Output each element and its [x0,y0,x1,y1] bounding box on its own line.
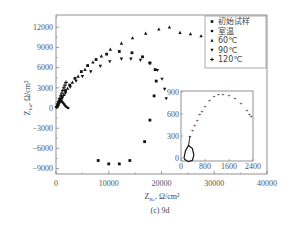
series-square [56,50,157,165]
inset-data-point: + [233,96,236,101]
data-point-triangle-up [189,32,192,35]
y-tick-label: 0 [49,104,53,113]
data-point-square [155,80,158,83]
inset-data-point: + [250,114,253,119]
legend-label: 室温 [218,26,234,36]
inset-data-point: + [203,104,206,109]
data-point-square [118,162,121,165]
y-tick-label: 12000 [33,23,53,32]
data-point-triangle-up [91,60,94,63]
data-point-triangle-up [76,75,79,78]
data-point-triangle-up [178,31,181,34]
inset-y-tick-label: 900 [167,88,179,97]
data-point-square [86,64,89,67]
x-tick-label: 20000 [152,179,172,188]
data-point-square [107,162,110,165]
data-point-square [105,53,108,56]
inset-data-point: + [227,93,230,98]
inset-x-tick-label: 1600 [221,162,237,171]
data-point-square [80,70,83,73]
data-point-triangle-up [109,48,112,51]
data-point-triangle-up [131,36,134,39]
data-point-triangle-up [66,87,69,90]
data-point-triangle-down [74,80,77,83]
x-tick-label: 40000 [257,179,277,188]
data-point-triangle-down [139,59,142,62]
inset-x-tick-label: 0 [179,162,183,171]
data-point-triangle-up [120,42,123,45]
data-point-triangle-down [81,75,84,78]
data-point-square [95,58,98,61]
data-point-triangle-up [157,27,160,30]
data-point-triangle-down [89,70,92,73]
y-tick-label: −9000 [32,164,53,173]
inset-data-point: + [212,94,215,99]
inset-data-point: + [208,98,211,103]
y-tick-label: −3000 [32,124,53,133]
data-point-square [128,159,131,162]
series-plus [55,81,68,109]
inset-y-tick-label: 0 [175,154,179,163]
data-point-square [143,140,146,143]
y-axis-title: ZIm, Ω/cm² [23,80,33,115]
data-point-triangle-down [129,57,132,60]
data-point-circle [211,30,214,33]
y-tick-label: 9000 [37,43,53,52]
data-point-triangle-down [165,97,168,100]
series-triangle-down [57,57,168,106]
data-point-triangle-down [160,78,163,81]
inset-data-point: + [239,101,242,106]
inset-data-point: + [196,118,199,123]
main-data-points [55,25,203,165]
inset-data-point: + [193,123,196,128]
inset-y-tick-label: 300 [167,132,179,141]
y-tick-label: 6000 [37,63,53,72]
data-point-triangle-down [99,65,102,68]
data-point-triangle-down [120,57,123,60]
y-tick-label: −6000 [32,144,53,153]
y-tick-label: 3000 [37,84,53,93]
x-tick-label: 0 [54,179,58,188]
data-point-triangle-down [163,88,166,91]
data-point-triangle-up [144,31,147,34]
data-point-triangle-up [100,54,103,57]
data-point-triangle-up [168,25,171,28]
data-point-triangle-up [71,81,74,84]
inset-y-tick-label: 600 [167,110,179,119]
data-point-square [131,51,134,54]
eis-chart: 010000200003000040000120009000600030000−… [0,0,292,227]
inset-data-point: + [191,128,194,133]
legend-label: 60℃ [218,36,237,45]
figure-caption: (c) 9d [151,206,170,215]
data-point-triangle-up [83,68,86,71]
data-point-square [97,159,100,162]
legend-label: 120℃ [218,55,242,64]
inset-data-point: + [217,92,220,97]
data-point-triangle-down [108,60,111,63]
inset-x-tick-label: 800 [199,162,211,171]
data-point-square [153,94,156,97]
inset-data-point: + [200,109,203,114]
inset-x-tick-label: 2400 [245,162,261,171]
data-point-square [211,20,214,23]
inset-data-point: + [221,92,224,97]
data-point-square [148,119,151,122]
data-point-circle [67,107,70,110]
data-point-square [118,50,121,53]
x-tick-label: 30000 [204,179,224,188]
legend-label: 90℃ [218,46,237,55]
data-point-square [74,77,77,80]
legend-label: 初始试样 [218,16,250,26]
x-axis-title: ZRe, Ω/cm² [145,192,180,202]
data-point-square [141,55,144,58]
data-point-triangle-down [69,86,72,89]
data-point-triangle-up [199,34,202,37]
x-tick-label: 10000 [99,179,119,188]
